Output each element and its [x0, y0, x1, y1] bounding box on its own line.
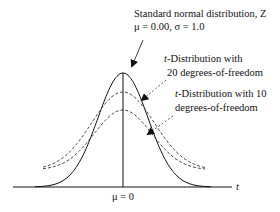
- t10-label-rest: -Distribution with 10: [178, 88, 267, 99]
- distribution-diagram: Standard normal distribution, Z μ = 0.00…: [0, 0, 280, 212]
- t10-curve: [43, 110, 205, 169]
- t20-arrow: [142, 80, 166, 100]
- normal-arrow: [132, 40, 143, 66]
- normal-label-line2: μ = 0.00, σ = 1.0: [134, 21, 204, 32]
- t10-label-line2: degrees-of-freedom: [175, 102, 258, 113]
- t20-label-line1: t-Distribution with: [164, 53, 243, 64]
- normal-label-line1: Standard normal distribution, Z: [134, 8, 266, 19]
- t20-label-rest: -Distribution with: [167, 53, 243, 64]
- t10-arrow: [148, 116, 173, 134]
- axis-label-t: t: [236, 181, 240, 192]
- t20-label-line2: 20 degrees-of-freedom: [167, 67, 263, 78]
- mu-label: μ = 0: [112, 191, 134, 202]
- t10-label-line1: t-Distribution with 10: [175, 88, 267, 99]
